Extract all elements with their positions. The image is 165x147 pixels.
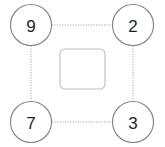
node-top-right[interactable]: 2: [113, 5, 154, 46]
node-label-top-left: 9: [26, 17, 35, 36]
node-label-top-right: 2: [128, 17, 137, 36]
node-label-bottom-left: 7: [26, 114, 35, 133]
node-top-left[interactable]: 9: [11, 5, 52, 46]
node-label-bottom-right: 3: [128, 114, 137, 133]
diagram-svg: 9 2 7 3: [0, 0, 165, 147]
diagram-canvas: 9 2 7 3: [0, 0, 165, 147]
center-box[interactable]: [60, 49, 105, 89]
node-bottom-right[interactable]: 3: [113, 102, 154, 143]
node-bottom-left[interactable]: 7: [11, 102, 52, 143]
